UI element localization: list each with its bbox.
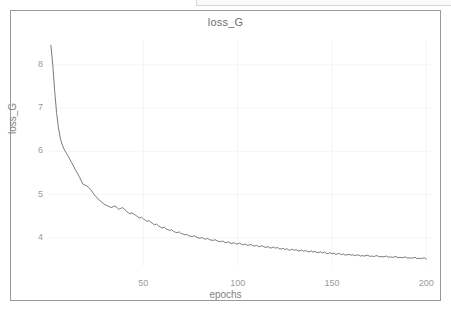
x-axis-label: epochs xyxy=(11,289,440,300)
y-tick-label: 6 xyxy=(27,145,43,155)
y-tick-label: 5 xyxy=(27,189,43,199)
x-tick-label: 150 xyxy=(317,278,347,288)
plot-area xyxy=(49,41,432,266)
chart-title: loss_G xyxy=(11,16,440,28)
y-axis-label: loss_G xyxy=(7,103,18,134)
series-line-loss_G xyxy=(51,45,426,259)
chart-page: loss_G loss_G epochs 45678 50100150200 xyxy=(0,0,451,311)
loss-curve-svg xyxy=(49,41,432,266)
chart-card: loss_G loss_G epochs 45678 50100150200 xyxy=(10,10,441,301)
y-tick-label: 4 xyxy=(27,232,43,242)
y-tick-label: 7 xyxy=(27,102,43,112)
gridlines xyxy=(49,41,432,266)
x-tick-label: 200 xyxy=(411,278,441,288)
x-tick-label: 100 xyxy=(223,278,253,288)
cutoff-panel-strip xyxy=(196,0,451,6)
y-tick-label: 8 xyxy=(27,59,43,69)
x-tick-label: 50 xyxy=(128,278,158,288)
